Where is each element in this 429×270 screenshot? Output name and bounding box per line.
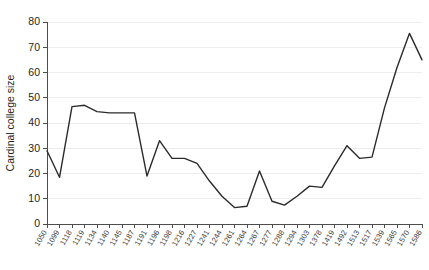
y-tick-label-40: 40: [28, 116, 40, 128]
y-tick-label-80: 80: [28, 15, 40, 27]
line-chart: 0102030405060708010501099111811191134114…: [0, 0, 429, 270]
y-tick-label-0: 0: [34, 217, 40, 229]
x-tick-label-1118: 1118: [58, 229, 74, 247]
y-tick-label-10: 10: [28, 192, 40, 204]
x-tick-label-1099: 1099: [45, 229, 61, 248]
y-tick-label-50: 50: [28, 91, 40, 103]
data-series-line: [47, 33, 422, 207]
y-tick-label-60: 60: [28, 66, 40, 78]
chart-figure: 0102030405060708010501099111811191134114…: [0, 0, 429, 270]
y-tick-label-30: 30: [28, 142, 40, 154]
y-tick-label-20: 20: [28, 167, 40, 179]
x-tick-label-1586: 1586: [407, 229, 423, 248]
y-tick-label-70: 70: [28, 41, 40, 53]
y-axis-title: Cardinal college size: [4, 74, 16, 171]
